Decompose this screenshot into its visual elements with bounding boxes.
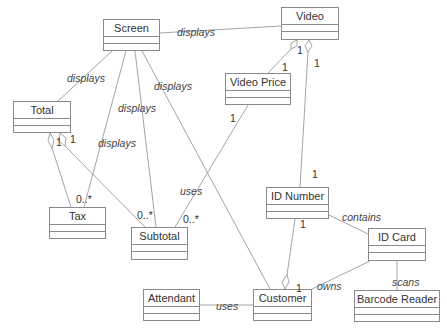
class-attributes [132, 245, 187, 252]
aggregation-diamond-icon [305, 40, 312, 52]
class-customer[interactable]: Customer [253, 289, 312, 321]
label-screen-subtotal-displays: displays [118, 102, 156, 114]
class-subtotal[interactable]: Subtotal [131, 227, 188, 260]
class-video-price[interactable]: Video Price [225, 73, 291, 105]
class-name: Barcode Reader [355, 291, 439, 308]
mult-videoprice-video: 1 [282, 61, 288, 73]
class-operations [132, 252, 187, 259]
class-barcode-reader[interactable]: Barcode Reader [354, 290, 440, 322]
class-operations [267, 212, 328, 218]
class-attributes [14, 119, 70, 126]
class-operations [282, 32, 338, 39]
class-name: Attendant [144, 290, 199, 307]
mult-subtotal-total-many: 0..* [137, 209, 153, 221]
label-videoprice-subtotal-uses: uses [180, 185, 202, 197]
label-screen-total-displays: displays [67, 72, 105, 84]
mult-subtotal-videoprice-many: 0..* [183, 213, 199, 225]
class-attributes [104, 37, 159, 44]
mult-total-tax: 1 [56, 136, 62, 148]
label-screen-customer-displays: displays [154, 80, 192, 92]
mult-videoprice-subtotal: 1 [230, 112, 236, 124]
association-lines [0, 0, 447, 335]
class-name: Video [282, 8, 338, 25]
label-attendant-customer-uses: uses [216, 300, 238, 312]
label-idcard-barcode-scans: scans [392, 276, 419, 288]
class-attributes [355, 308, 439, 315]
label-customer-idcard-owns: owns [317, 280, 342, 292]
class-operations [50, 232, 105, 238]
label-screen-tax-displays: displays [98, 137, 136, 149]
class-attributes [369, 246, 425, 253]
class-name: Screen [104, 20, 159, 37]
mult-idnumber-customer: 1 [300, 218, 306, 230]
class-attributes [282, 25, 338, 32]
mult-video-videoprice: 1 [297, 44, 303, 56]
class-attributes [50, 225, 105, 232]
class-operations [369, 253, 425, 260]
class-attendant[interactable]: Attendant [143, 289, 200, 321]
mult-video-idnumber: 1 [314, 57, 320, 69]
class-total[interactable]: Total [13, 101, 71, 133]
class-operations [144, 314, 199, 320]
class-name: Subtotal [132, 228, 187, 245]
class-operations [355, 315, 439, 321]
label-idnumber-idcard-contains: contains [342, 211, 381, 223]
mult-tax-many: 0..* [76, 193, 92, 205]
class-operations [226, 98, 290, 104]
class-name: ID Number [267, 188, 328, 205]
class-operations [14, 126, 70, 132]
class-screen[interactable]: Screen [103, 19, 160, 51]
class-attributes [144, 307, 199, 314]
class-id-number[interactable]: ID Number [266, 187, 329, 219]
class-attributes [254, 307, 311, 314]
class-name: Customer [254, 290, 311, 307]
mult-customer-idnumber: 1 [296, 282, 302, 294]
label-screen-video-displays: displays [177, 26, 215, 38]
mult-total-subtotal: 1 [70, 133, 76, 145]
class-video[interactable]: Video [281, 7, 339, 40]
class-attributes [226, 91, 290, 98]
class-name: Video Price [226, 74, 290, 91]
class-operations [254, 314, 311, 320]
class-tax[interactable]: Tax [49, 207, 106, 239]
class-name: ID Card [369, 229, 425, 246]
class-attributes [267, 205, 328, 212]
class-id-card[interactable]: ID Card [368, 228, 426, 261]
class-name: Total [14, 102, 70, 119]
class-name: Tax [50, 208, 105, 225]
aggregation-diamond-icon [282, 275, 289, 289]
class-operations [104, 44, 159, 50]
aggregation-diamond-icon [48, 133, 54, 148]
mult-idnumber-video: 1 [312, 168, 318, 180]
